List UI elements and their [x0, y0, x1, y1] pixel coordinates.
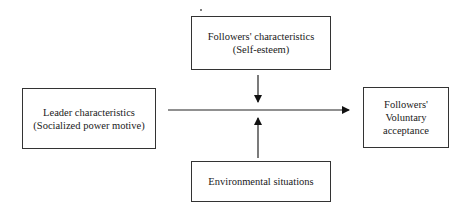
followers-voluntary-acceptance-box: Followers' Voluntary acceptance [363, 87, 449, 148]
box-line: Leader characteristics [43, 106, 135, 119]
leader-characteristics-box: Leader characteristics (Socialized power… [22, 88, 156, 149]
box-line: (Socialized power motive) [33, 119, 144, 132]
followers-characteristics-box: Followers' characteristics (Self-esteem) [191, 16, 331, 70]
box-line: Voluntary [385, 111, 426, 124]
box-line: acceptance [383, 124, 429, 137]
box-line: (Self-esteem) [233, 43, 290, 56]
box-line: Environmental situations [208, 175, 313, 188]
box-line: Followers' characteristics [208, 30, 315, 43]
environmental-situations-box: Environmental situations [191, 161, 331, 202]
box-line: Followers' [384, 98, 428, 111]
